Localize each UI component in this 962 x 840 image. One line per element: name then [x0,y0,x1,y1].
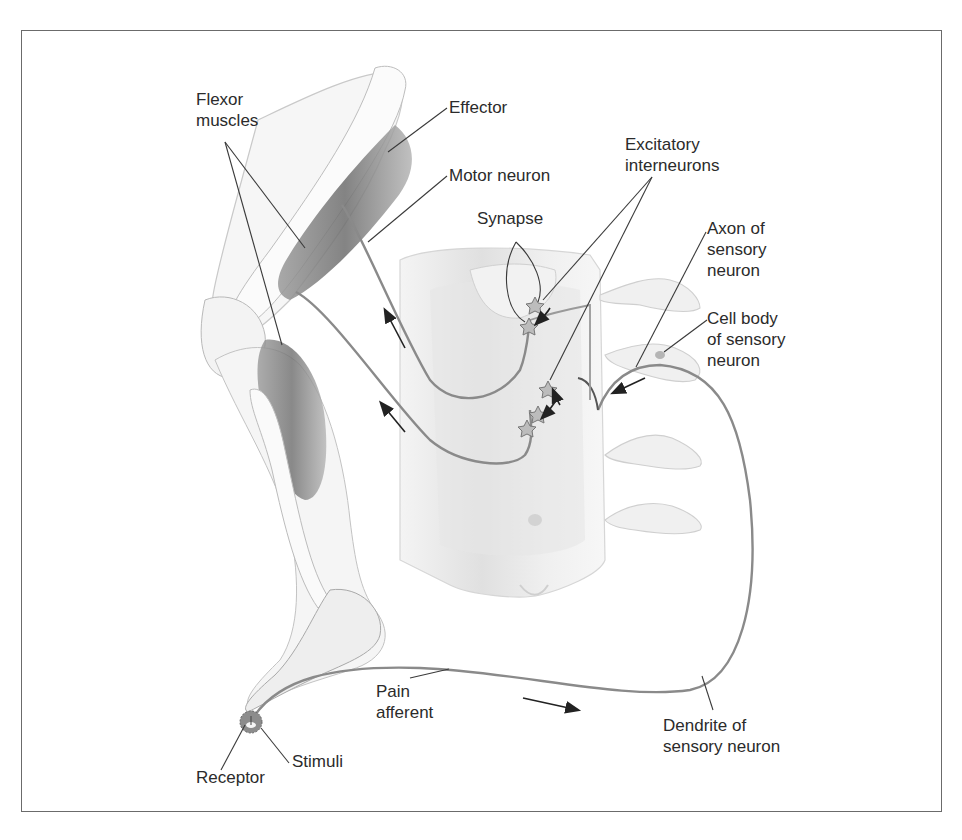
label-flexor-line1: Flexor [196,89,258,110]
spinal-cord [400,248,605,597]
label-dendrite-line2: sensory neuron [663,736,780,757]
leader-pain [410,669,449,678]
leader-cell-body [664,320,707,352]
dorsal-root-ganglia [600,279,701,534]
label-pain-line2: afferent [376,702,433,723]
label-pain-afferent: Pain afferent [376,681,433,723]
label-synapse: Synapse [477,208,543,229]
label-axon-line1: Axon of [707,218,767,239]
label-flexor-muscles: Flexor muscles [196,89,258,131]
label-pain-line1: Pain [376,681,433,702]
label-axon-line3: neuron [707,260,767,281]
label-stimuli: Stimuli [292,751,343,772]
label-motor-neuron: Motor neuron [449,165,550,186]
label-excitatory-line1: Excitatory [625,134,720,155]
label-cell-body-line2: of sensory [707,329,785,350]
label-excitatory-line2: interneurons [625,155,720,176]
label-cell-body-line3: neuron [707,350,785,371]
label-cell-body: Cell body of sensory neuron [707,308,785,371]
label-dendrite: Dendrite of sensory neuron [663,715,780,757]
label-axon-of-sensory-neuron: Axon of sensory neuron [707,218,767,281]
leader-receptor [221,725,245,770]
label-flexor-line2: muscles [196,110,258,131]
leader-stimuli [261,728,289,763]
label-effector: Effector [449,97,507,118]
label-excitatory-interneurons: Excitatory interneurons [625,134,720,176]
reflex-arc-illustration [0,0,962,840]
leg-illustration [201,66,412,712]
receptor-icon [240,711,262,733]
label-dendrite-line1: Dendrite of [663,715,780,736]
arrow-afferent [523,698,578,710]
label-cell-body-line1: Cell body [707,308,785,329]
label-receptor: Receptor [196,767,265,788]
label-axon-line2: sensory [707,239,767,260]
